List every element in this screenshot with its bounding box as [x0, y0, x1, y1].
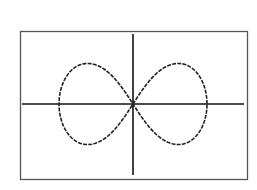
graph-screen [0, 0, 257, 190]
